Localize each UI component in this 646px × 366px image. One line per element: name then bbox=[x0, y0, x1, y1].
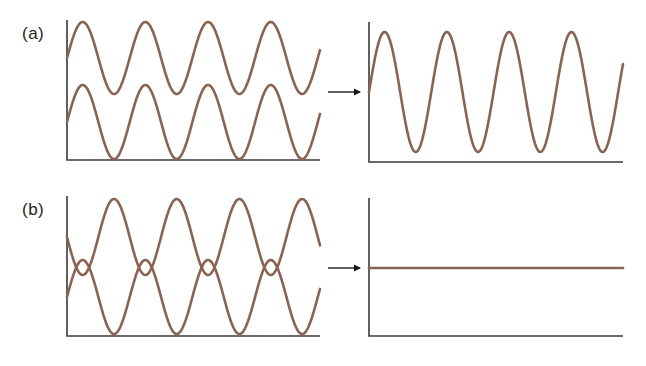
axis-lines bbox=[369, 22, 623, 162]
panel-label-b: (b) bbox=[22, 200, 44, 220]
panel-a bbox=[67, 20, 623, 162]
panel-b bbox=[67, 196, 623, 336]
panel-a-result-wave bbox=[369, 22, 623, 162]
wave-1 bbox=[67, 199, 320, 275]
sum-wave bbox=[369, 32, 623, 152]
wave-2 bbox=[67, 85, 320, 159]
panel-b-input-waves bbox=[67, 196, 320, 336]
panel-b-result-wave bbox=[369, 198, 623, 336]
panel-a-input-waves bbox=[67, 20, 320, 160]
wave-1 bbox=[67, 22, 320, 94]
wave-2 bbox=[67, 260, 320, 334]
interference-figure bbox=[0, 0, 646, 366]
panel-label-a: (a) bbox=[22, 24, 44, 44]
